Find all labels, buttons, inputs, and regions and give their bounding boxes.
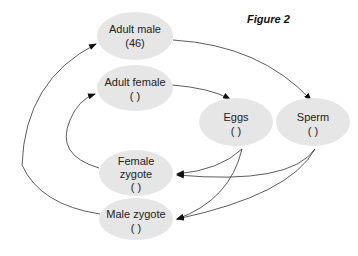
node-male-zygote: Male zygote ( ) <box>99 198 173 240</box>
edge-male-zygote-to-adult-male <box>22 44 100 214</box>
node-count: ( ) <box>231 125 241 137</box>
node-label: Eggs <box>223 111 249 123</box>
edge-female-to-eggs <box>172 85 230 99</box>
edge-male-to-sperm <box>173 40 311 100</box>
node-adult-female: Adult female ( ) <box>97 65 173 111</box>
node-label: Adult male <box>109 23 161 35</box>
node-adult-male: Adult male (46) <box>97 12 173 60</box>
life-cycle-diagram: Figure 2 Adult male (46) Adult female ( … <box>0 0 358 256</box>
node-label: Adult female <box>104 76 165 88</box>
node-sperm: Sperm ( ) <box>276 98 350 146</box>
node-label: Female <box>118 155 155 167</box>
node-count: ( ) <box>131 222 141 234</box>
node-label: Sperm <box>297 111 329 123</box>
edge-eggs-to-male-zygote <box>177 149 242 219</box>
node-count: (46) <box>125 37 145 49</box>
edge-female-zygote-to-adult-female <box>66 94 99 168</box>
node-female-zygote: Female zygote ( ) <box>99 150 173 196</box>
node-count: ( ) <box>131 181 141 193</box>
edge-eggs-to-female-zygote <box>177 149 242 174</box>
node-label: Male zygote <box>106 208 165 220</box>
node-eggs: Eggs ( ) <box>199 98 273 146</box>
edge-sperm-to-male-zygote <box>177 149 315 219</box>
node-count: ( ) <box>308 125 318 137</box>
node-count: ( ) <box>130 90 140 102</box>
figure-title: Figure 2 <box>247 13 290 25</box>
node-label-2: zygote <box>120 168 152 180</box>
